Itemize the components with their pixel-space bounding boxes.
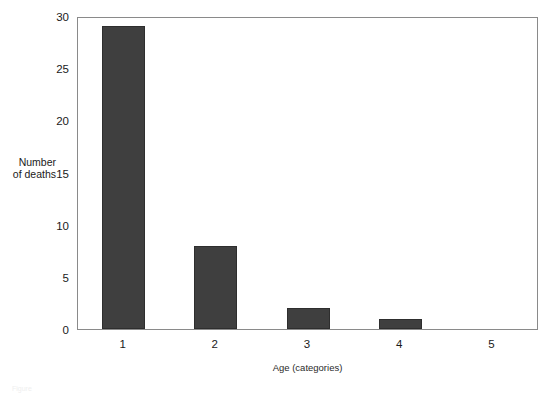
x-tick-label-3: 3 [287, 338, 327, 351]
y-tick-label-25: 25 [56, 63, 69, 75]
y-tick-label-5: 5 [63, 272, 69, 284]
bar-category-2 [194, 246, 237, 329]
y-axis-title-line-1: Number [0, 157, 56, 169]
x-axis-title: Age (categories) [77, 362, 538, 374]
x-tick-label-2: 2 [195, 338, 235, 351]
y-axis-title: Number of deaths [0, 157, 56, 180]
y-tick-label-30: 30 [56, 11, 69, 23]
x-tick-label-4: 4 [379, 338, 419, 351]
bar-category-1 [102, 26, 145, 329]
y-tick-label-10: 10 [56, 220, 69, 232]
y-tick-label-0: 0 [63, 324, 69, 336]
x-tick-label-1: 1 [103, 338, 143, 351]
y-axis-title-line-2: of deaths [0, 169, 56, 181]
bar-category-3 [287, 308, 330, 329]
y-axis-tick-labels: 051015202530 [0, 0, 73, 392]
y-tick-label-15: 15 [56, 168, 69, 180]
plot-area [77, 17, 538, 330]
y-tick-label-20: 20 [56, 115, 69, 127]
figure-caption: Figure [12, 385, 212, 394]
x-tick-label-5: 5 [471, 338, 511, 351]
bar-category-4 [379, 319, 422, 329]
